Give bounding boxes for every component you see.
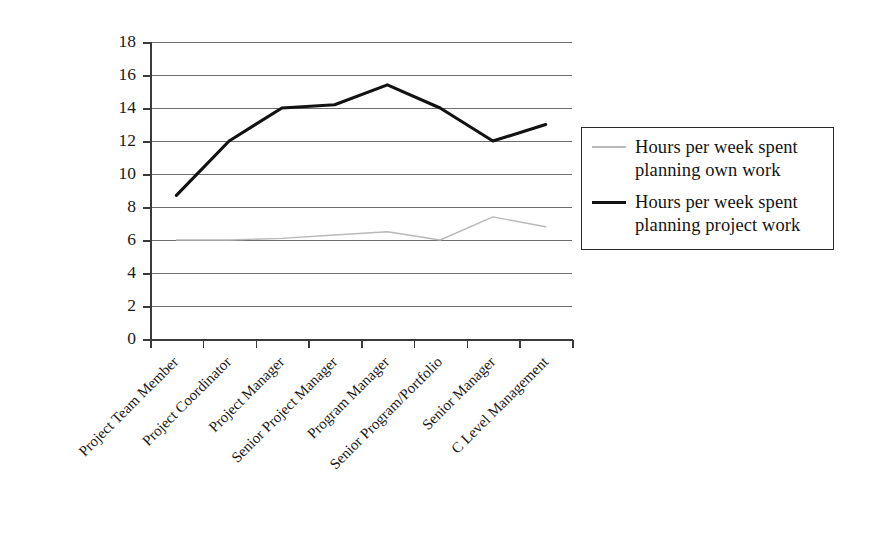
y-tick-mark-16 — [143, 75, 150, 77]
series-line-own-work — [176, 217, 545, 240]
legend-line-swatch-own-work — [590, 136, 628, 158]
y-tick-mark-4 — [143, 273, 150, 275]
y-tick-label-10: 10 — [119, 165, 137, 183]
x-tick-mark-7 — [519, 340, 521, 348]
y-tick-mark-12 — [143, 141, 150, 143]
chart-legend: Hours per week spent planning own work H… — [581, 127, 834, 250]
legend-line-swatch-project-work — [590, 191, 628, 213]
x-tick-mark-2 — [256, 340, 258, 348]
legend-label-own-work: Hours per week spent planning own work — [635, 136, 828, 182]
y-tick-label-4: 4 — [127, 264, 136, 282]
x-tick-mark-0 — [150, 340, 152, 348]
x-tick-mark-1 — [203, 340, 205, 348]
y-tick-label-14: 14 — [119, 99, 137, 117]
series-line-project-work — [176, 85, 545, 196]
y-tick-label-12: 12 — [119, 132, 137, 150]
y-tick-mark-14 — [143, 108, 150, 110]
y-tick-label-0: 0 — [127, 330, 136, 348]
y-tick-label-8: 8 — [127, 198, 136, 216]
y-tick-mark-10 — [143, 174, 150, 176]
y-tick-mark-18 — [143, 42, 150, 44]
y-tick-mark-2 — [143, 306, 150, 308]
y-tick-mark-8 — [143, 207, 150, 209]
y-tick-mark-0 — [143, 339, 150, 341]
y-tick-label-18: 18 — [119, 33, 137, 51]
x-tick-mark-8 — [572, 340, 574, 348]
x-tick-mark-3 — [308, 340, 310, 348]
legend-item-own-work: Hours per week spent planning own work — [590, 136, 828, 182]
line-chart: 181614121086420 Project Team MemberProje… — [0, 0, 879, 554]
y-tick-label-16: 16 — [119, 66, 137, 84]
y-tick-label-6: 6 — [127, 231, 136, 249]
legend-label-project-work: Hours per week spent planning project wo… — [635, 191, 828, 237]
x-tick-mark-5 — [414, 340, 416, 348]
y-tick-mark-6 — [143, 240, 150, 242]
series-plot — [150, 42, 572, 340]
legend-item-project-work: Hours per week spent planning project wo… — [590, 191, 828, 237]
x-tick-mark-4 — [361, 340, 363, 348]
x-axis-label-0: Project Team Member — [0, 354, 182, 554]
y-tick-label-2: 2 — [127, 297, 136, 315]
x-tick-mark-6 — [467, 340, 469, 348]
